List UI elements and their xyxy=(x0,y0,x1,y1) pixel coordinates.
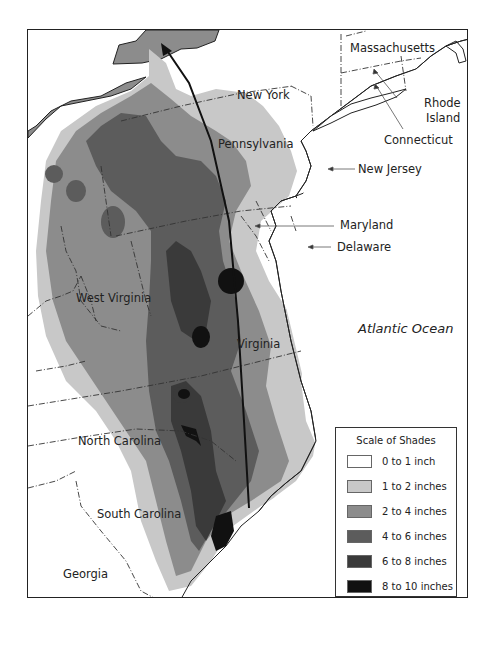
legend-title: Scale of Shades xyxy=(336,435,456,446)
legend-label: 1 to 2 inches xyxy=(382,481,447,492)
label-new-jersey: New Jersey xyxy=(358,164,422,176)
legend-item: 6 to 8 inches xyxy=(347,554,447,568)
label-rhode-island-line1: Rhode xyxy=(424,98,461,110)
swatch-1-2 xyxy=(347,480,372,493)
swatch-0-1 xyxy=(347,455,372,468)
legend-label: 6 to 8 inches xyxy=(382,556,447,567)
label-connecticut: Connecticut xyxy=(384,135,453,147)
legend-label: 0 to 1 inch xyxy=(382,456,435,467)
legend-item: 1 to 2 inches xyxy=(347,479,447,493)
swatch-4-6 xyxy=(347,530,372,543)
label-georgia: Georgia xyxy=(63,569,108,581)
legend-item: 0 to 1 inch xyxy=(347,454,435,468)
legend-box: Scale of Shades 0 to 1 inch 1 to 2 inche… xyxy=(335,427,457,597)
label-maryland: Maryland xyxy=(340,220,393,232)
label-west-virginia: West Virginia xyxy=(76,293,151,305)
legend-item: 4 to 6 inches xyxy=(347,529,447,543)
label-pennsylvania: Pennsylvania xyxy=(218,139,294,151)
swatch-2-4 xyxy=(347,505,372,518)
legend-item: 2 to 4 inches xyxy=(347,504,447,518)
label-south-carolina: South Carolina xyxy=(97,509,181,521)
label-atlantic-ocean: Atlantic Ocean xyxy=(358,322,453,335)
legend-label: 2 to 4 inches xyxy=(382,506,447,517)
label-rhode-island-line2: Island xyxy=(426,113,460,125)
swatch-8-10 xyxy=(347,580,372,593)
label-virginia: Virginia xyxy=(237,339,280,351)
label-massachusetts: Massachusetts xyxy=(350,43,435,55)
legend-label: 4 to 6 inches xyxy=(382,531,447,542)
swatch-6-8 xyxy=(347,555,372,568)
label-new-york: New York xyxy=(237,90,290,102)
legend-item: 8 to 10 inches xyxy=(347,579,453,593)
legend-label: 8 to 10 inches xyxy=(382,581,453,592)
label-delaware: Delaware xyxy=(337,242,391,254)
label-north-carolina: North Carolina xyxy=(78,436,161,448)
